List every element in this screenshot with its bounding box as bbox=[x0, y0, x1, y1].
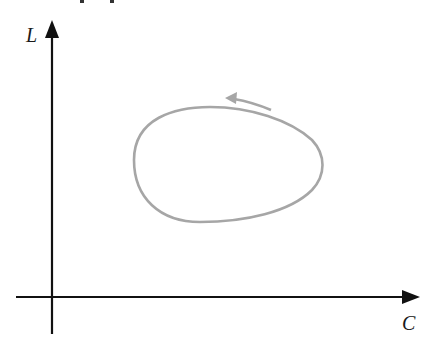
x-axis-label: C bbox=[402, 312, 416, 334]
x-axis bbox=[16, 290, 420, 304]
phase-diagram: L C bbox=[0, 0, 435, 346]
y-axis-label: L bbox=[25, 24, 37, 46]
limit-cycle-curve bbox=[134, 107, 323, 222]
y-axis bbox=[45, 20, 59, 334]
x-axis-arrowhead-icon bbox=[402, 290, 420, 304]
y-axis-arrowhead-icon bbox=[45, 20, 59, 38]
clipped-top-text bbox=[80, 0, 114, 3]
